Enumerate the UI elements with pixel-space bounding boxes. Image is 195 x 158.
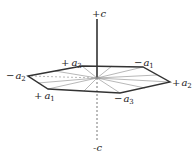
label-plus-a2: +a2 (172, 77, 192, 90)
label-plus-c: +c (92, 8, 106, 19)
label-minus-a2: −a2 (6, 70, 26, 83)
label-plus-a1: +a1 (34, 90, 55, 103)
hexagonal-axes-diagram: +c -c +a3 −a1 −a2 +a2 +a1 −a3 (0, 0, 195, 158)
label-minus-c: -c (93, 142, 102, 153)
label-minus-a3: −a3 (114, 93, 134, 106)
